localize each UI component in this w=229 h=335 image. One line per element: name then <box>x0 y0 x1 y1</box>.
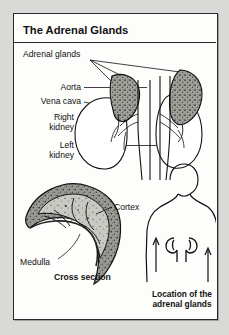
caption-cross-section: Cross section <box>54 272 111 282</box>
label-left-kidney-line1: Left <box>60 140 75 150</box>
torso-kidney-left <box>186 238 197 262</box>
label-right-kidney-line1: Right <box>54 112 75 122</box>
page-title: The Adrenal Glands <box>23 24 128 36</box>
label-left-kidney-line2: kidney <box>49 150 75 160</box>
label-aorta: Aorta <box>60 82 81 92</box>
adrenal-glands-illustration: The Adrenal Glands Adrenal glands Aorta … <box>14 14 216 318</box>
label-adrenal-glands: Adrenal glands <box>23 49 80 59</box>
label-medulla: Medulla <box>20 257 50 267</box>
caption-location-line2: adrenal glands <box>152 299 211 309</box>
adrenal-cross-section <box>26 184 121 284</box>
label-right-kidney-line2: kidney <box>49 122 75 132</box>
adrenal-gland-right <box>110 74 139 121</box>
torso-arrows <box>153 238 211 282</box>
label-vena-cava: Vena cava <box>41 96 81 106</box>
caption-location-line1: Location of the <box>152 289 212 299</box>
torso-kidney-right <box>166 238 177 262</box>
leader-medulla <box>58 234 80 259</box>
label-cortex: Cortex <box>114 202 140 212</box>
page-background: The Adrenal Glands Adrenal glands Aorta … <box>0 0 229 335</box>
torso-figure <box>146 164 216 282</box>
figure-panel: The Adrenal Glands Adrenal glands Aorta … <box>13 13 218 320</box>
